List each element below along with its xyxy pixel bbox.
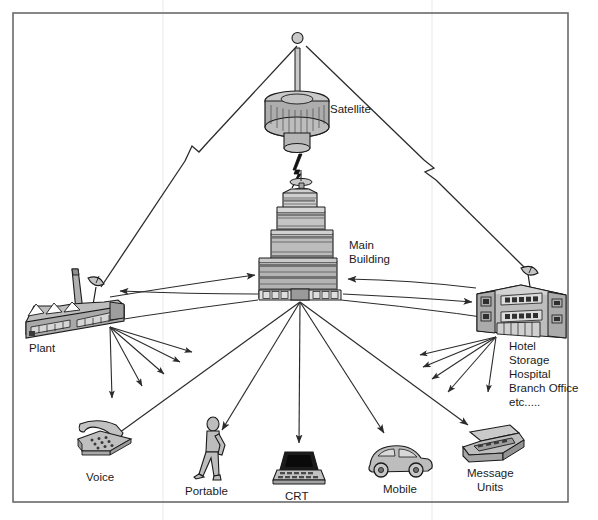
label-crt: CRT [285,490,308,502]
label-remote-line5: etc..... [509,396,540,408]
label-plant: Plant [29,342,56,354]
label-satellite: Satellite [330,103,371,115]
label-remote-line4: Branch Office [509,382,578,394]
label-main-building-line2: Building [349,253,390,265]
label-voice: Voice [86,471,114,483]
label-remote-line2: Storage [509,354,549,366]
label-mobile: Mobile [383,483,417,495]
label-portable: Portable [185,485,228,497]
diagram-canvas: Satellite Main Building Plant Hotel Stor… [0,0,598,520]
label-main-building-line1: Main [349,239,374,251]
label-message-line1: Message [467,467,514,479]
label-remote-line1: Hotel [509,340,536,352]
label-message-line2: Units [477,481,503,493]
label-remote-line3: Hospital [509,368,551,380]
network-diagram: Satellite Main Building Plant Hotel Stor… [0,0,598,520]
